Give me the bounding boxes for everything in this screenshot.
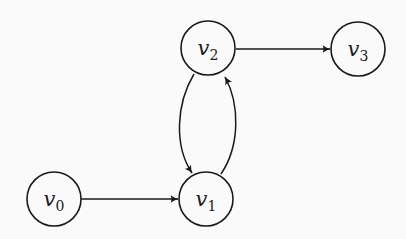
node-v1-label: v1 bbox=[196, 187, 217, 214]
node-v3-label: v3 bbox=[348, 37, 369, 64]
node-v0-label: v0 bbox=[44, 187, 65, 214]
node-v2: v2 bbox=[181, 21, 235, 75]
node-v3: v3 bbox=[331, 22, 385, 76]
graph-diagram: v0 v1 v2 v3 bbox=[0, 0, 406, 239]
edge-v1-v2 bbox=[221, 77, 236, 174]
edge-v2-v1 bbox=[179, 74, 194, 173]
node-v0: v0 bbox=[27, 172, 81, 226]
node-v2-label: v2 bbox=[198, 36, 219, 63]
node-v1: v1 bbox=[179, 172, 233, 226]
